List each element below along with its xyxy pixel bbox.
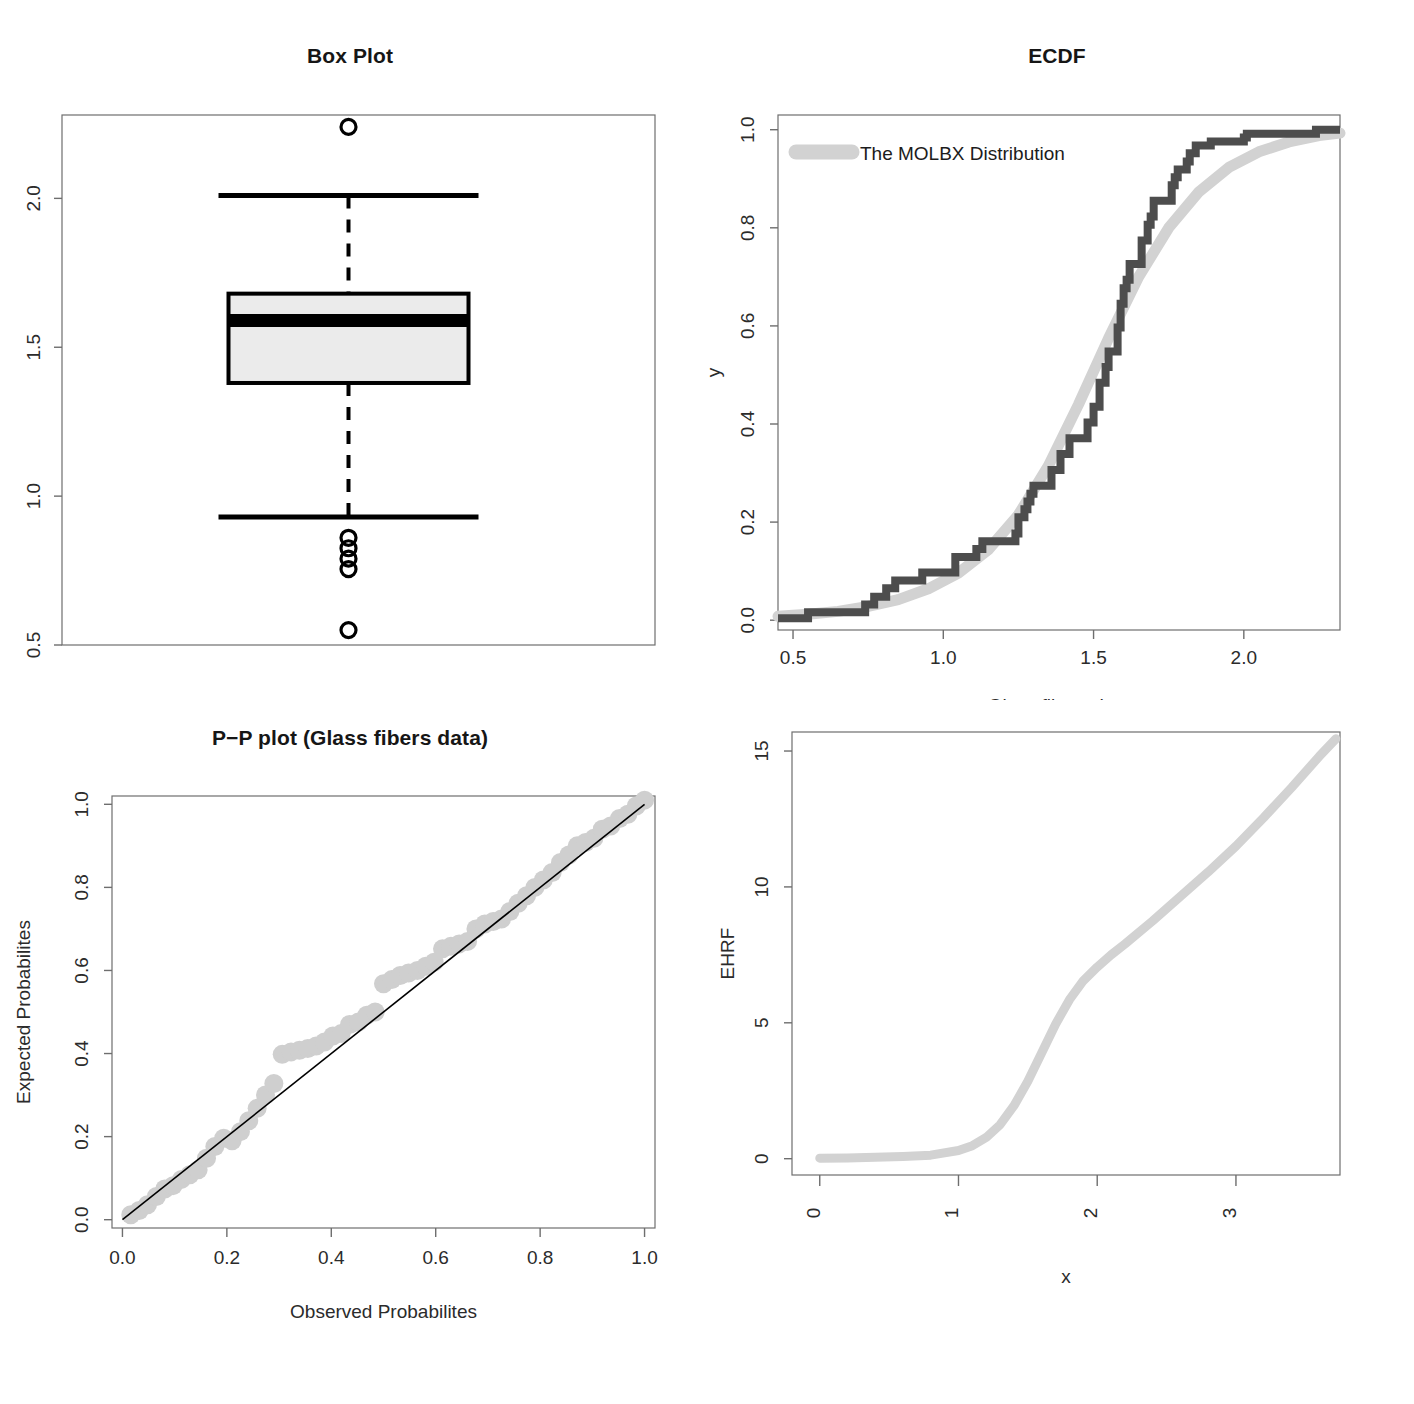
- x-tick-label: 1: [941, 1208, 962, 1219]
- panel-ecdf: ECDF 0.00.20.40.60.81.00.51.01.52.0Glass…: [700, 0, 1414, 700]
- y-tick-label: 15: [751, 740, 772, 761]
- box-plot-title: Box Plot: [0, 44, 700, 68]
- x-tick-label: 0.4: [318, 1247, 345, 1268]
- y-tick-label: 5: [751, 1018, 772, 1029]
- outlier-point: [341, 562, 356, 577]
- x-tick-label: 0.6: [423, 1247, 449, 1268]
- ecdf-y-axis-label: y: [703, 367, 724, 377]
- ecdf-frame: [778, 115, 1340, 630]
- pp-plot-title: P−P plot (Glass fibers data): [0, 726, 700, 750]
- y-tick-label: 1.5: [23, 334, 44, 360]
- x-tick-label: 2.0: [1231, 647, 1257, 668]
- pp-data-point: [635, 791, 654, 810]
- ecdf-empirical-step: [778, 130, 1340, 619]
- x-tick-label: 0.0: [109, 1247, 135, 1268]
- ecdf-legend-label: The MOLBX Distribution: [860, 143, 1065, 165]
- y-tick-label: 0.5: [23, 632, 44, 658]
- y-tick-label: 0.8: [737, 215, 758, 241]
- x-tick-label: 1.0: [631, 1247, 657, 1268]
- panel-pp-plot: P−P plot (Glass fibers data) 0.00.20.40.…: [0, 700, 700, 1404]
- ehrf-y-axis-label: EHRF: [717, 928, 738, 980]
- x-tick-label: 1.0: [930, 647, 956, 668]
- x-tick-label: 0.5: [780, 647, 806, 668]
- x-tick-label: 1.5: [1080, 647, 1106, 668]
- box-iqr-rect: [229, 294, 469, 383]
- pp-data-point: [264, 1074, 283, 1093]
- y-tick-label: 0.2: [71, 1123, 92, 1149]
- y-tick-label: 1.0: [71, 791, 92, 817]
- outlier-point: [341, 623, 356, 638]
- y-tick-label: 2.0: [23, 185, 44, 211]
- ehrf-canvas: 0510150123xEHRF: [700, 700, 1414, 1404]
- y-tick-label: 1.0: [23, 483, 44, 509]
- ehrf-frame: [792, 732, 1340, 1175]
- x-tick-label: 2: [1080, 1208, 1101, 1219]
- pp-reference-line: [122, 804, 644, 1219]
- y-tick-label: 0.0: [737, 607, 758, 633]
- outlier-point: [341, 119, 356, 134]
- box-plot-canvas: 0.51.01.52.0: [0, 0, 700, 700]
- y-tick-label: 0.4: [71, 1040, 92, 1067]
- x-tick-label: 3: [1219, 1208, 1240, 1219]
- y-tick-label: 1.0: [737, 117, 758, 143]
- x-tick-label: 0.2: [214, 1247, 240, 1268]
- x-tick-label: 0.8: [527, 1247, 553, 1268]
- y-tick-label: 10: [751, 876, 772, 897]
- panel-ehrf: 0510150123xEHRF: [700, 700, 1414, 1404]
- ehrf-curve: [820, 739, 1336, 1158]
- y-tick-label: 0.4: [737, 410, 758, 437]
- y-tick-label: 0.8: [71, 874, 92, 900]
- y-tick-label: 0.0: [71, 1206, 92, 1232]
- panel-box-plot: Box Plot 0.51.01.52.0: [0, 0, 700, 700]
- y-tick-label: 0.2: [737, 509, 758, 535]
- pp-plot-canvas: 0.00.20.40.60.81.00.00.20.40.60.81.0Obse…: [0, 700, 700, 1404]
- ecdf-canvas: 0.00.20.40.60.81.00.51.01.52.0Glass fibe…: [700, 0, 1414, 700]
- x-tick-label: 0: [803, 1208, 824, 1219]
- ecdf-fitted-curve: [778, 133, 1340, 616]
- y-tick-label: 0: [751, 1153, 772, 1164]
- ecdf-title: ECDF: [700, 44, 1414, 68]
- ehrf-x-axis-label: x: [1061, 1266, 1071, 1287]
- y-tick-label: 0.6: [737, 313, 758, 339]
- pp-y-axis-label: Expected Probabilites: [13, 920, 34, 1104]
- y-tick-label: 0.6: [71, 957, 92, 983]
- statistical-figure-grid: Box Plot 0.51.01.52.0 ECDF 0.00.20.40.60…: [0, 0, 1414, 1404]
- pp-x-axis-label: Observed Probabilites: [290, 1301, 477, 1322]
